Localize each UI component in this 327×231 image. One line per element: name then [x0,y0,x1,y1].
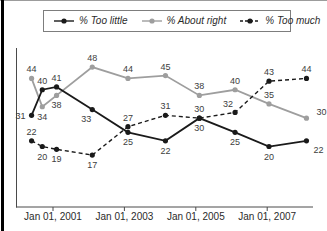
data-point-about-right [40,104,45,109]
data-point-about-right [29,76,34,81]
too-little-line-swatch [54,16,74,26]
legend-label-about-right: % About right [167,16,227,26]
value-label-too-little: 25 [230,137,240,147]
data-point-about-right [197,93,202,98]
chart-legend: % Too little % About right % Too much [43,10,291,32]
data-point-too-much [125,124,130,129]
about-right-line-swatch [142,16,162,26]
data-point-too-much [232,110,237,115]
data-point-too-little [232,130,237,135]
data-point-too-little [54,84,59,89]
data-point-too-much [163,113,168,118]
data-point-too-little [90,107,95,112]
value-label-about-right: 44 [123,64,133,74]
data-point-too-much [90,152,95,157]
data-point-about-right [54,93,59,98]
legend-item-too-much: % Too much [240,16,320,26]
data-point-about-right [90,64,95,69]
legend-item-too-little: % Too little [54,16,128,26]
value-label-too-little: 20 [264,152,274,162]
data-point-too-much [304,76,309,81]
data-point-too-much [54,147,59,152]
value-label-about-right: 45 [160,62,170,72]
value-label-too-much: 19 [52,154,62,164]
value-label-too-much: 44 [301,64,311,74]
value-label-about-right: 30 [316,107,326,117]
data-point-too-much [266,79,271,84]
legend-label-too-little: % Too little [79,16,128,26]
value-label-too-much: 22 [27,127,37,137]
value-label-about-right: 34 [37,112,47,122]
value-label-about-right: 35 [264,90,274,100]
value-label-about-right: 44 [27,64,37,74]
value-label-about-right: 38 [194,81,204,91]
value-label-too-much: 31 [160,101,170,111]
value-label-too-little: 33 [81,114,91,124]
data-point-too-little [304,138,309,143]
value-label-too-little: 40 [37,76,47,86]
data-point-too-little [163,138,168,143]
data-point-too-much [29,138,34,143]
x-tick-label: Jan 01, 2005 [167,211,225,222]
value-label-too-much: 43 [264,67,274,77]
value-label-too-little: 31 [16,111,26,121]
legend-item-about-right: % About right [142,16,227,26]
value-label-about-right: 38 [52,100,62,110]
value-label-too-much: 20 [37,152,47,162]
value-label-about-right: 48 [87,53,97,63]
too-much-line-swatch [240,16,260,26]
data-point-about-right [266,101,271,106]
data-point-too-much [40,144,45,149]
value-label-too-much: 27 [123,113,133,123]
data-point-too-little [125,130,130,135]
chart-screenshot: Jan 01, 2001Jan 01, 2003Jan 01, 2005Jan … [0,0,327,231]
trend-line-chart: Jan 01, 2001Jan 01, 2003Jan 01, 2005Jan … [0,0,327,231]
data-point-too-little [29,113,34,118]
data-point-about-right [232,87,237,92]
value-label-too-little: 41 [52,73,62,83]
value-label-too-much: 30 [194,104,204,114]
data-point-about-right [304,116,309,121]
x-tick-label: Jan 01, 2001 [24,211,82,222]
x-tick-label: Jan 01, 2003 [95,211,153,222]
data-point-about-right [163,73,168,78]
value-label-too-little: 22 [160,146,170,156]
legend-label-too-much: % Too much [265,16,320,26]
data-point-about-right [125,76,130,81]
x-tick-label: Jan 01, 2007 [238,211,296,222]
data-point-too-little [266,144,271,149]
value-label-too-much: 17 [87,160,97,170]
value-label-too-little: 22 [313,145,323,155]
data-point-too-little [197,116,202,121]
value-label-about-right: 40 [230,76,240,86]
data-point-too-little [40,87,45,92]
value-label-too-little: 25 [123,137,133,147]
value-label-too-much: 32 [223,99,233,109]
value-label-too-little: 30 [194,123,204,133]
